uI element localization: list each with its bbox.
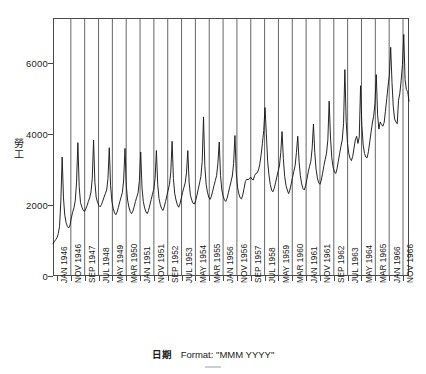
x-axis-title: 日期: [152, 349, 172, 360]
x-tick-mark: [292, 276, 293, 281]
y-axis: 6000 4000 2000 0: [0, 0, 48, 374]
x-tick-mark: [389, 276, 390, 281]
x-axis-caption: 日期Format: "MMM YYYY": [0, 347, 426, 361]
x-tick-mark: [126, 276, 127, 281]
x-tick-mark: [320, 276, 321, 281]
x-tick-mark: [154, 276, 155, 281]
y-tick-label: 4000: [26, 129, 48, 140]
x-tick-mark: [334, 276, 335, 281]
y-axis-title-char-2: 工: [10, 149, 28, 160]
employment-time-series-chart: 6000 4000 2000 0 勞 工 JAN 1946NOV 1946SEP…: [0, 0, 426, 374]
y-tick-mark: [48, 276, 53, 277]
x-tick-mark: [375, 276, 376, 281]
x-tick-mark: [85, 276, 86, 281]
plot-canvas: [53, 18, 409, 276]
x-tick-mark: [182, 276, 183, 281]
y-axis-title-char-1: 勞: [10, 138, 28, 149]
x-tick-mark: [306, 276, 307, 281]
x-tick-mark: [195, 276, 196, 281]
footer-divider: [205, 366, 221, 368]
x-tick-mark: [278, 276, 279, 281]
x-tick-mark: [99, 276, 100, 281]
x-tick-mark: [71, 276, 72, 281]
x-tick-mark: [361, 276, 362, 281]
x-tick-mark: [251, 276, 252, 281]
x-tick-mark: [223, 276, 224, 281]
x-tick-mark: [112, 276, 113, 281]
x-tick-mark: [140, 276, 141, 281]
y-tick-label: 6000: [26, 58, 48, 69]
x-tick-mark: [348, 276, 349, 281]
x-tick-mark: [265, 276, 266, 281]
y-axis-title: 勞 工: [10, 138, 28, 160]
y-tick-label: 2000: [26, 200, 48, 211]
x-tick-mark: [403, 276, 404, 281]
x-tick-mark: [168, 276, 169, 281]
x-tick-mark: [209, 276, 210, 281]
x-axis-format-note: Format: "MMM YYYY": [181, 349, 275, 360]
x-tick-mark: [237, 276, 238, 281]
x-tick-mark: [57, 276, 58, 281]
data-series-line: [53, 34, 409, 243]
